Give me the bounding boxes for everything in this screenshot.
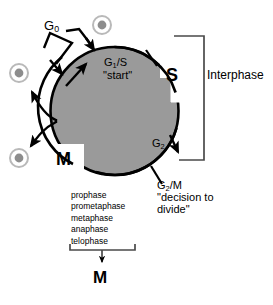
list-item: telophase — [71, 236, 125, 247]
cell-icon-daughter-upper — [10, 64, 28, 82]
cell-icon-daughter-lower — [10, 149, 28, 167]
list-item: prometaphase — [71, 201, 125, 212]
mitosis-phase-list: prophase prometaphase metaphase anaphase… — [71, 190, 125, 247]
label-mitosis-bracket: M — [93, 269, 107, 287]
list-item: anaphase — [71, 224, 125, 235]
label-m-phase: M — [56, 150, 71, 169]
label-g0: G0 — [44, 19, 59, 34]
label-interphase: Interphase — [207, 69, 264, 82]
label-decision-line2: divide" — [157, 204, 190, 216]
cell-icon-quiescent-g0 — [93, 16, 111, 34]
diagram-artwork — [0, 0, 273, 305]
label-start: "start" — [103, 70, 132, 82]
list-item: metaphase — [71, 213, 125, 224]
label-s-phase: S — [166, 66, 178, 85]
label-g2-phase: G2 — [152, 138, 165, 151]
cell-cycle-diagram: G0 G1/S "start" S M G2 G2/M "decision to… — [0, 0, 273, 305]
label-g1s-checkpoint: G1/S — [104, 57, 127, 70]
list-item: prophase — [71, 190, 125, 201]
